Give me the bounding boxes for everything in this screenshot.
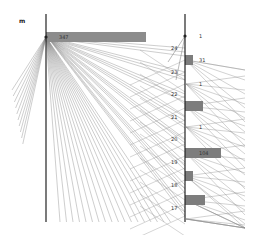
category-bar[interactable] [185,195,205,205]
ribbon-line [14,37,46,102]
tick-label: 22 [171,91,177,97]
ribbon-line [140,134,185,164]
ribbon-line [130,168,185,193]
bar-value-label: 1 [199,124,202,130]
category-bar[interactable] [185,171,193,181]
ribbon-line [130,144,185,169]
bar-value-label: 104 [199,150,209,156]
bar-value-label: 31 [199,57,205,63]
bar-value-label: 1 [199,33,202,39]
ribbon-line [140,122,185,152]
category-bar[interactable] [185,101,203,111]
ribbon-line [13,37,46,96]
ribbon-line [186,211,245,219]
bar-value-label: 1 [199,81,202,87]
tick-label: 24 [171,45,177,51]
ribbon-line [48,38,185,213]
ribbon-line [22,37,46,138]
bar-value-label: 347 [59,34,69,40]
ribbon-line [46,37,171,222]
tick-label: 23 [171,69,177,75]
tick-label: 20 [171,136,177,142]
ribbon-line [186,168,245,176]
tick-label: 17 [171,205,177,211]
node-dot [183,34,186,37]
ribbon-line [48,37,185,208]
ribbon-line [19,37,46,126]
ribbon-line [130,108,185,133]
ribbon-line [48,38,185,190]
ribbon-line [46,37,119,222]
ribbon-line [18,37,46,120]
node-dot [44,35,47,38]
ribbon-lines [12,36,245,235]
ribbon-line [140,74,185,104]
ribbon-line [46,37,86,222]
ribbon-line [20,37,46,132]
category-bar[interactable] [185,55,193,65]
parallel-sets-chart: 34713111104m2423222120191817 [0,0,256,235]
ribbon-line [140,110,185,140]
ribbon-line [48,37,185,139]
tick-label: 19 [171,159,177,165]
tick-label: 18 [171,182,177,188]
ribbon-line [23,37,46,144]
ribbon-line [16,37,46,108]
axis-title: m [19,17,25,24]
tick-label: 21 [171,114,177,120]
ribbon-line [130,84,185,109]
ribbon-line [140,146,185,176]
